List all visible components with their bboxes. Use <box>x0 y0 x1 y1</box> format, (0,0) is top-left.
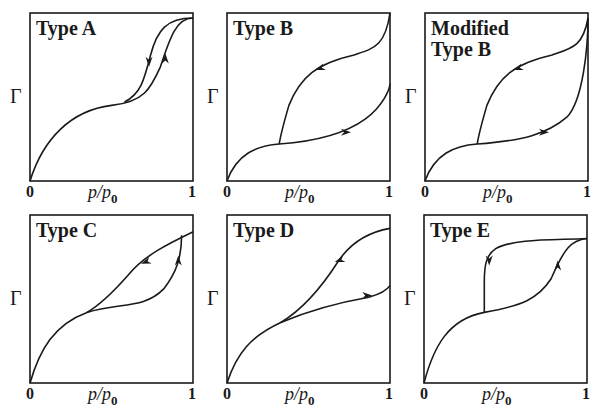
panel-type-e: Type E Γ 0 1 p/p0 <box>394 202 594 407</box>
x-tick-min: 0 <box>421 184 429 200</box>
desorption-curve <box>87 232 193 313</box>
x-tick-min: 0 <box>26 184 34 200</box>
panel-title: Type B <box>233 18 293 39</box>
direction-arrow-icon <box>334 255 346 265</box>
adsorption-curve <box>30 18 193 181</box>
adsorption-curve <box>424 239 587 384</box>
panel-type-b: Type B Γ 0 1 p/p0 <box>197 0 397 205</box>
y-axis-label: Γ <box>404 288 416 308</box>
direction-arrow-icon <box>554 260 561 270</box>
y-axis-label: Γ <box>405 86 417 106</box>
panel-type-c: Type C Γ 0 1 p/p0 <box>0 202 200 407</box>
panel-title: Type E <box>430 220 490 241</box>
desorption-curve <box>281 228 390 322</box>
adsorption-curve <box>227 84 390 181</box>
panel-title: Type D <box>233 220 294 241</box>
panel-title: Type A <box>36 18 96 39</box>
panel-title: Type C <box>36 220 97 241</box>
panel-title: Modified Type B <box>431 18 509 60</box>
x-axis-label-main: p/p <box>482 384 505 404</box>
x-axis-label: p/p0 <box>482 385 512 410</box>
panel-type-d: Type D Γ 0 1 p/p0 <box>197 202 397 407</box>
x-axis-label: p/p0 <box>88 385 118 410</box>
panel-type-a: Type A Γ 0 1 p/p0 <box>0 0 200 205</box>
x-axis-label-main: p/p <box>88 182 111 202</box>
x-tick-max: 1 <box>385 184 393 200</box>
x-axis-label: p/p0 <box>285 385 315 410</box>
desorption-curve <box>125 18 194 102</box>
y-axis-label: Γ <box>207 288 219 308</box>
x-axis-label-main: p/p <box>88 384 111 404</box>
desorption-curve <box>484 239 587 313</box>
x-tick-min: 0 <box>223 184 231 200</box>
x-tick-min: 0 <box>223 386 231 402</box>
x-tick-max: 1 <box>385 386 393 402</box>
x-axis-label-sub: 0 <box>308 393 315 408</box>
y-axis-label: Γ <box>10 288 22 308</box>
x-tick-max: 1 <box>188 386 196 402</box>
x-axis-label-main: p/p <box>285 384 308 404</box>
x-axis-label-main: p/p <box>285 182 308 202</box>
x-tick-min: 0 <box>26 386 34 402</box>
x-tick-max: 1 <box>188 184 196 200</box>
y-axis-label: Γ <box>10 86 22 106</box>
x-tick-max: 1 <box>583 184 591 200</box>
x-axis-label-sub: 0 <box>505 393 512 408</box>
panel-type-mb: Modified Type B Γ 0 1 p/p0 <box>395 0 595 205</box>
x-tick-max: 1 <box>582 386 590 402</box>
y-axis-label: Γ <box>207 86 219 106</box>
desorption-curve <box>279 13 390 144</box>
x-axis-label-sub: 0 <box>111 393 118 408</box>
x-axis-label-main: p/p <box>483 182 506 202</box>
x-tick-min: 0 <box>420 386 428 402</box>
adsorption-curve <box>30 235 182 383</box>
